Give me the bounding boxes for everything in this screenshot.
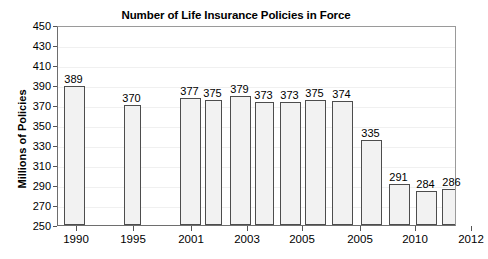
y-tick-label: 270 bbox=[11, 201, 51, 212]
bar-value-label: 375 bbox=[198, 88, 228, 99]
x-tick-label: 2003 bbox=[217, 233, 277, 245]
y-tick-label: 410 bbox=[11, 61, 51, 72]
bar[interactable] bbox=[416, 191, 437, 225]
bar-value-label: 370 bbox=[117, 93, 147, 104]
plot-area bbox=[57, 26, 456, 226]
gridline bbox=[58, 87, 455, 88]
x-tick-mark bbox=[360, 226, 361, 231]
x-tick-label: 1990 bbox=[46, 233, 106, 245]
y-tick-label: 450 bbox=[11, 21, 51, 32]
bar[interactable] bbox=[389, 184, 410, 225]
bar-value-label: 375 bbox=[300, 88, 330, 99]
x-tick-mark bbox=[76, 226, 77, 231]
y-tick-label: 390 bbox=[11, 81, 51, 92]
y-tick-label: 290 bbox=[11, 181, 51, 192]
bar[interactable] bbox=[305, 100, 326, 225]
bar[interactable] bbox=[361, 140, 382, 225]
x-tick-label: 1995 bbox=[103, 233, 163, 245]
y-tick-label: 330 bbox=[11, 141, 51, 152]
gridline bbox=[58, 47, 455, 48]
y-tick-label: 250 bbox=[11, 221, 51, 232]
bar[interactable] bbox=[230, 96, 251, 225]
x-tick-label: 2012 bbox=[441, 233, 488, 245]
x-tick-mark bbox=[415, 226, 416, 231]
gridline bbox=[58, 67, 455, 68]
x-tick-mark bbox=[247, 226, 248, 231]
bar-value-label: 374 bbox=[327, 89, 357, 100]
bar[interactable] bbox=[280, 102, 301, 225]
x-tick-mark bbox=[133, 226, 134, 231]
x-tick-label: 2005 bbox=[272, 233, 332, 245]
y-tick-mark bbox=[53, 226, 57, 227]
x-tick-mark bbox=[471, 226, 472, 231]
bar[interactable] bbox=[180, 98, 201, 225]
y-tick-label: 430 bbox=[11, 41, 51, 52]
bar[interactable] bbox=[64, 86, 85, 225]
x-tick-label: 2010 bbox=[385, 233, 445, 245]
bar[interactable] bbox=[332, 101, 353, 225]
x-tick-label: 2005 bbox=[330, 233, 390, 245]
bar-value-label: 389 bbox=[59, 74, 89, 85]
bar-value-label: 335 bbox=[356, 128, 386, 139]
chart-title: Number of Life Insurance Policies in For… bbox=[0, 9, 472, 21]
x-tick-mark bbox=[302, 226, 303, 231]
bar[interactable] bbox=[124, 105, 141, 225]
bar[interactable] bbox=[255, 102, 274, 225]
x-tick-label: 2001 bbox=[161, 233, 221, 245]
bar[interactable] bbox=[442, 189, 456, 225]
y-tick-label: 350 bbox=[11, 121, 51, 132]
y-tick-label: 370 bbox=[11, 101, 51, 112]
x-tick-mark bbox=[191, 226, 192, 231]
bar-value-label: 286 bbox=[437, 177, 467, 188]
bar-value-label: 291 bbox=[384, 172, 414, 183]
y-tick-label: 310 bbox=[11, 161, 51, 172]
bar[interactable] bbox=[205, 100, 222, 225]
